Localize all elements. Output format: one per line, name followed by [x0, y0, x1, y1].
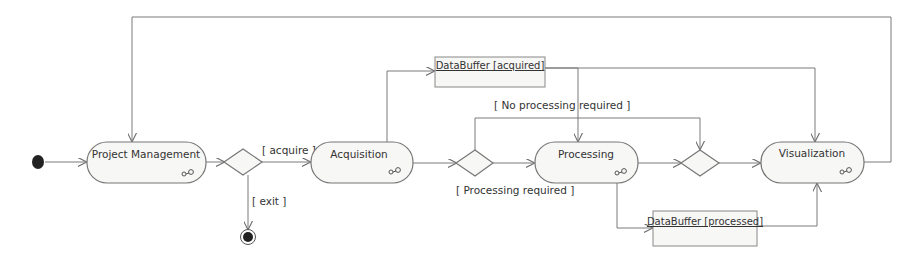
action-visualization[interactable]: Visualization [761, 142, 864, 183]
initial-node[interactable] [32, 155, 44, 169]
object-label: DataBuffer [processed] [647, 216, 763, 227]
guard-processing-required: [ Processing required ] [456, 184, 574, 196]
decision-processing[interactable] [456, 150, 493, 176]
object-databuffer-processed[interactable]: DataBuffer [processed] [647, 211, 763, 246]
edge-visualization-loop-to-project-management [132, 17, 891, 162]
action-label: Project Management [92, 148, 200, 160]
merge-node[interactable] [681, 150, 719, 176]
action-project-management[interactable]: Project Management [87, 142, 206, 183]
action-label: Acquisition [330, 148, 388, 160]
guard-no-processing: [ No processing required ] [494, 99, 630, 111]
guard-acquire: [ acquire ] [262, 144, 316, 156]
action-acquisition[interactable]: Acquisition [311, 142, 413, 183]
guard-exit: [ exit ] [252, 195, 286, 207]
action-label: Visualization [779, 147, 845, 159]
edges [45, 17, 891, 229]
decision-acquire-or-exit[interactable] [224, 149, 262, 175]
object-label: DataBuffer [acquired] [436, 60, 545, 71]
object-databuffer-acquired[interactable]: DataBuffer [acquired] [435, 57, 545, 87]
activity-diagram: Project Management [ acquire ] [ exit ] … [0, 0, 920, 262]
final-node[interactable] [241, 230, 256, 245]
action-processing[interactable]: Processing [535, 142, 638, 183]
edge-acquisition-to-buffer-acquired [387, 71, 434, 142]
action-label: Processing [558, 148, 614, 160]
edge-buffer-processed-to-visualization [757, 184, 817, 226]
